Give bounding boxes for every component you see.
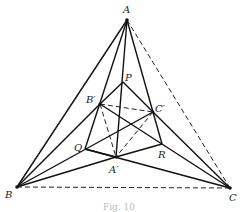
geometry-figure: A B C P B′ C′ Q R A′ Fig. 10 (0, 0, 241, 212)
point-B (15, 185, 19, 189)
label-C-prime: C′ (155, 103, 166, 114)
segment-A-A1 (116, 20, 127, 157)
label-A: A (122, 4, 130, 15)
segment-Q-A1 (85, 149, 116, 157)
point-A1 (114, 155, 117, 158)
segment-C-B1 (100, 104, 230, 188)
dashed-B1-A1 (100, 104, 116, 157)
dashed-B1-C1 (100, 104, 153, 112)
point-C (228, 186, 232, 190)
label-Q: Q (74, 142, 82, 153)
label-R: R (157, 149, 166, 160)
point-B1 (98, 102, 101, 105)
segment-A1-R (116, 144, 162, 157)
vertex-dots (15, 18, 232, 190)
point-C1 (152, 111, 155, 114)
label-B-prime: B′ (85, 94, 96, 105)
label-P: P (124, 72, 132, 83)
label-A-prime: A′ (108, 164, 119, 175)
dashed-B-C (17, 187, 230, 188)
label-C: C (229, 192, 237, 203)
dashed-lines (17, 20, 230, 188)
point-A (125, 18, 129, 22)
label-B: B (4, 189, 12, 200)
figure-caption: Fig. 10 (103, 202, 135, 212)
dashed-A-C (127, 20, 230, 188)
solid-lines (17, 20, 230, 188)
